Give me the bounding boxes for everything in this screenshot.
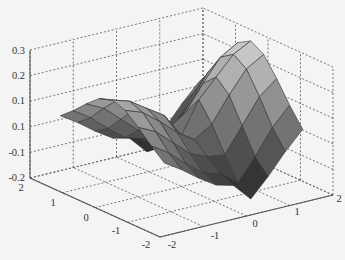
right-axis-tick: 2 bbox=[336, 193, 341, 204]
right-axis-tick: -1 bbox=[211, 230, 220, 241]
right-axis-tick: 1 bbox=[294, 206, 299, 217]
right-axis-tick: -2 bbox=[168, 239, 177, 250]
z-tick-label: 0.1 bbox=[12, 95, 25, 106]
left-axis-tick: -1 bbox=[112, 225, 121, 236]
z-tick-label: 0.3 bbox=[12, 45, 25, 56]
surface-mesh bbox=[60, 41, 302, 199]
z-tick-label: 0.2 bbox=[12, 70, 25, 81]
right-axis-tick: 0 bbox=[252, 218, 257, 229]
z-tick-label: 0.1 bbox=[12, 121, 25, 132]
left-axis-tick: -2 bbox=[142, 239, 151, 250]
surface-plot: 0.3 0.2 0.1 0.1 -0.1 -0.2 2 1 0 -1 -2 -2… bbox=[0, 0, 345, 260]
z-axis-tick-labels: 0.3 0.2 0.1 0.1 -0.1 -0.2 bbox=[8, 45, 25, 183]
z-tick-label: -0.1 bbox=[8, 147, 25, 158]
right-axis-tick-labels: -2 -1 0 1 2 bbox=[168, 193, 342, 250]
left-axis-tick: 1 bbox=[50, 197, 55, 208]
left-axis-tick: 0 bbox=[83, 212, 88, 223]
left-axis-tick-labels: 2 1 0 -1 -2 bbox=[18, 182, 150, 250]
left-axis-tick: 2 bbox=[18, 182, 23, 193]
